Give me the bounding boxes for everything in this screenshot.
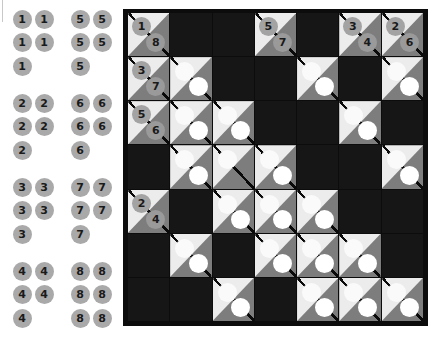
answer-cell[interactable]: [297, 278, 338, 321]
number-token-6[interactable]: 6: [93, 117, 112, 136]
lower-drop-slot[interactable]: [358, 254, 377, 273]
answer-cell[interactable]: [382, 278, 423, 321]
lower-drop-slot[interactable]: [315, 210, 334, 229]
blocked-cell: [382, 234, 423, 277]
number-token-3[interactable]: 3: [35, 201, 54, 220]
number-token-5[interactable]: 5: [71, 33, 90, 52]
number-token-5[interactable]: 5: [93, 33, 112, 52]
number-token-5[interactable]: 5: [71, 57, 90, 76]
number-token-4[interactable]: 4: [13, 262, 32, 281]
number-token-3[interactable]: 3: [13, 225, 32, 244]
lower-drop-slot[interactable]: [273, 166, 292, 185]
lower-drop-slot[interactable]: [358, 298, 377, 317]
clue-cell: 24: [128, 190, 169, 233]
answer-cell[interactable]: [297, 57, 338, 100]
upper-drop-slot[interactable]: [387, 150, 406, 169]
lower-drop-slot[interactable]: [273, 254, 292, 273]
number-token-8[interactable]: 8: [71, 262, 90, 281]
number-token-6[interactable]: 6: [71, 94, 90, 113]
lower-drop-slot[interactable]: [231, 298, 250, 317]
answer-cell[interactable]: [339, 101, 380, 144]
answer-cell[interactable]: [255, 190, 296, 233]
upper-drop-slot[interactable]: [260, 195, 279, 214]
number-token-7[interactable]: 7: [71, 201, 90, 220]
lower-drop-slot[interactable]: [189, 121, 208, 140]
lower-drop-slot[interactable]: [189, 166, 208, 185]
answer-cell[interactable]: [170, 234, 211, 277]
number-token-3[interactable]: 3: [13, 201, 32, 220]
number-token-2[interactable]: 2: [13, 117, 32, 136]
number-token-3[interactable]: 3: [13, 178, 32, 197]
lower-drop-slot[interactable]: [400, 166, 419, 185]
clue-lower-number: 4: [146, 210, 165, 229]
number-token-1[interactable]: 1: [13, 10, 32, 29]
answer-cell[interactable]: [213, 101, 254, 144]
blocked-cell: [255, 278, 296, 321]
diagonal-divider: [339, 278, 380, 321]
number-token-8[interactable]: 8: [93, 262, 112, 281]
blocked-cell: [339, 145, 380, 188]
upper-drop-slot[interactable]: [218, 150, 237, 169]
upper-drop-slot[interactable]: [344, 239, 363, 258]
answer-cell[interactable]: [382, 57, 423, 100]
answer-cell[interactable]: [297, 234, 338, 277]
lower-drop-slot[interactable]: [273, 210, 292, 229]
blocked-cell: [128, 145, 169, 188]
upper-drop-slot[interactable]: [218, 195, 237, 214]
number-token-6[interactable]: 6: [71, 117, 90, 136]
answer-cell[interactable]: [213, 190, 254, 233]
number-token-1[interactable]: 1: [13, 57, 32, 76]
answer-cell[interactable]: [170, 145, 211, 188]
number-token-6[interactable]: 6: [71, 141, 90, 160]
number-token-4[interactable]: 4: [35, 262, 54, 281]
answer-cell[interactable]: [255, 234, 296, 277]
blocked-cell: [213, 234, 254, 277]
blocked-cell: [382, 101, 423, 144]
answer-cell[interactable]: [255, 145, 296, 188]
number-token-6[interactable]: 6: [93, 94, 112, 113]
number-token-8[interactable]: 8: [71, 309, 90, 328]
answer-cell[interactable]: [170, 101, 211, 144]
number-token-4[interactable]: 4: [35, 285, 54, 304]
clue-cell: 18: [128, 13, 169, 56]
number-token-2[interactable]: 2: [13, 94, 32, 113]
clue-cell: 37: [128, 57, 169, 100]
number-token-7[interactable]: 7: [93, 178, 112, 197]
answer-cell[interactable]: [339, 234, 380, 277]
number-token-7[interactable]: 7: [93, 201, 112, 220]
clue-cell: 56: [128, 101, 169, 144]
number-token-2[interactable]: 2: [35, 117, 54, 136]
number-token-1[interactable]: 1: [35, 10, 54, 29]
blocked-cell: [213, 13, 254, 56]
answer-cell[interactable]: [297, 190, 338, 233]
number-token-4[interactable]: 4: [13, 309, 32, 328]
blocked-cell: [213, 57, 254, 100]
lower-drop-slot[interactable]: [189, 77, 208, 96]
answer-cell[interactable]: [339, 278, 380, 321]
blocked-cell: [170, 13, 211, 56]
number-token-5[interactable]: 5: [93, 10, 112, 29]
number-token-8[interactable]: 8: [93, 309, 112, 328]
lower-drop-slot[interactable]: [358, 121, 377, 140]
number-token-7[interactable]: 7: [71, 225, 90, 244]
number-token-2[interactable]: 2: [13, 141, 32, 160]
answer-cell[interactable]: [213, 278, 254, 321]
answer-cell[interactable]: [170, 57, 211, 100]
number-token-7[interactable]: 7: [71, 178, 90, 197]
number-token-4[interactable]: 4: [13, 285, 32, 304]
lower-drop-slot[interactable]: [231, 210, 250, 229]
answer-cell[interactable]: [213, 145, 254, 188]
number-token-3[interactable]: 3: [35, 178, 54, 197]
number-token-1[interactable]: 1: [13, 33, 32, 52]
lower-drop-slot[interactable]: [189, 254, 208, 273]
number-token-8[interactable]: 8: [71, 285, 90, 304]
number-token-5[interactable]: 5: [71, 10, 90, 29]
number-token-1[interactable]: 1: [35, 33, 54, 52]
answer-cell[interactable]: [382, 145, 423, 188]
number-token-8[interactable]: 8: [93, 285, 112, 304]
number-token-tray: 1111155555222226666633333777774444488888…: [0, 0, 120, 337]
upper-drop-slot[interactable]: [175, 239, 194, 258]
number-token-2[interactable]: 2: [35, 94, 54, 113]
lower-drop-slot[interactable]: [400, 298, 419, 317]
clue-upper-number: 5: [259, 17, 278, 36]
